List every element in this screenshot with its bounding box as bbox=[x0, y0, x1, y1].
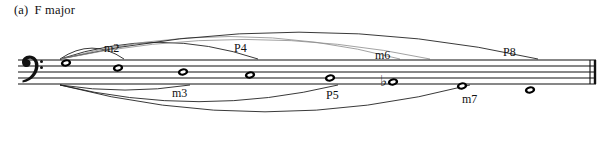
bass-clef-dot1 bbox=[40, 60, 43, 63]
slur-arc-arc-P5 bbox=[60, 85, 338, 102]
interval-label-m2: m2 bbox=[104, 41, 119, 56]
slur-arc-arc-m7 bbox=[60, 85, 470, 112]
interval-label-P4: P4 bbox=[234, 41, 247, 56]
interval-label-m7: m7 bbox=[462, 92, 477, 107]
notehead-A bbox=[177, 67, 189, 76]
interval-label-P8: P8 bbox=[503, 45, 516, 60]
music-notation-svg: ♭ bbox=[0, 0, 606, 141]
notehead-E bbox=[456, 81, 468, 90]
notehead-C bbox=[324, 73, 336, 82]
slur-arc-arc-P4 bbox=[60, 42, 258, 59]
interval-label-m6: m6 bbox=[375, 48, 390, 63]
bass-clef-dot2 bbox=[40, 66, 43, 69]
interval-label-P5: P5 bbox=[326, 88, 339, 103]
notehead-G bbox=[112, 63, 124, 72]
figure-root: (a)F major ♭ m2m3P4P5m6m7P8 bbox=[0, 0, 606, 141]
noteheads-group: ♭ bbox=[60, 58, 536, 94]
notehead-D bbox=[387, 77, 399, 86]
interval-label-m3: m3 bbox=[172, 86, 187, 101]
slur-arc-arc-P8 bbox=[60, 32, 538, 59]
staff-group bbox=[18, 60, 596, 84]
accidental-flat-icon: ♭ bbox=[380, 73, 387, 89]
notehead-F2 bbox=[524, 85, 536, 94]
